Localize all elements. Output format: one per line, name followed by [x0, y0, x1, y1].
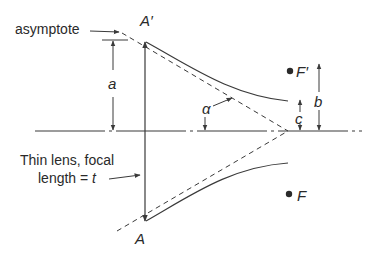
hyperbola-upper-branch — [146, 42, 288, 101]
lens-label-line2: length = t — [38, 170, 97, 186]
hyperbola-lens-diagram: asymptote A′ A a α c b F′ F Thin lens, f… — [0, 0, 377, 257]
lens-pointer-arrow — [109, 175, 140, 179]
asymptote-pointer-arrow — [90, 31, 119, 32]
dim-c-label: c — [295, 110, 303, 127]
focal-point-f-prime — [287, 68, 293, 74]
focal-point-f-prime-label: F′ — [296, 63, 309, 80]
dim-a-label: a — [108, 75, 116, 92]
lens-focal-var: t — [92, 170, 97, 186]
hyperbola-lower-branch — [146, 163, 288, 221]
alpha-arrow-upper — [213, 98, 232, 106]
point-a-prime-label: A′ — [139, 12, 154, 29]
point-a-label: A — [134, 230, 145, 247]
asymptote-lower — [117, 131, 288, 231]
lens-label-line1: Thin lens, focal — [20, 152, 114, 168]
asymptote-label: asymptote — [15, 21, 80, 37]
lens-label-line2-prefix: length = — [38, 170, 92, 186]
alpha-label: α — [202, 100, 211, 117]
dim-b-label: b — [314, 93, 322, 110]
focal-point-f-label: F — [297, 187, 307, 204]
focal-point-f — [286, 191, 292, 197]
